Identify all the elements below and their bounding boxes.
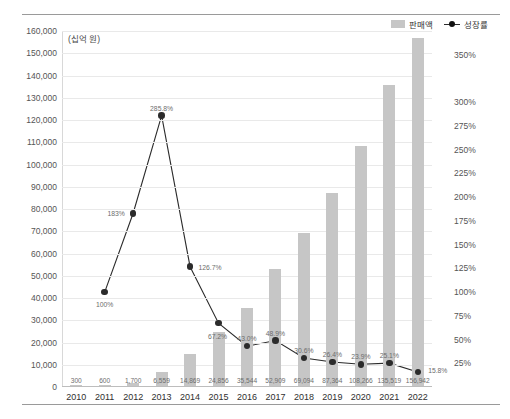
x-axis-tick: 2010 (66, 392, 86, 402)
gridline (62, 76, 432, 77)
gridline (62, 31, 432, 32)
y-axis-left-tick: 110,000 (27, 137, 57, 147)
growth-value-label: 126.7% (199, 264, 222, 271)
bar-value-label: 69,094 (294, 377, 314, 384)
growth-value-label: 100% (96, 301, 113, 308)
gridline (62, 53, 432, 54)
y-axis-left-tick: 100,000 (26, 160, 57, 170)
gridline (62, 231, 432, 232)
gridline (62, 142, 432, 143)
chart-figure: 판매액 성장률 (십억 원) 010,00020,00030,00040,000… (0, 0, 510, 419)
gridline (62, 98, 432, 99)
growth-value-label: 23.9% (351, 353, 370, 360)
x-axis-tick: 2015 (209, 392, 229, 402)
y-axis-right-tick: 75% (454, 311, 471, 321)
gridline (62, 120, 432, 121)
bar (412, 38, 424, 386)
growth-point-marker (158, 112, 165, 119)
bar-value-label: 6,559 (153, 377, 170, 384)
y-axis-left-tick: 80,000 (31, 204, 57, 214)
growth-value-label: 285.8% (150, 105, 173, 112)
gridline (62, 298, 432, 299)
y-axis-left-tick: 130,000 (26, 93, 57, 103)
bar (70, 385, 82, 386)
bar-value-label: 156,942 (406, 377, 430, 384)
y-axis-right-tick: 125% (454, 263, 476, 273)
bar-value-label: 52,909 (265, 377, 285, 384)
bar-value-label: 300 (71, 377, 82, 384)
growth-value-label: 30.6% (294, 347, 313, 354)
bottom-divider (22, 404, 500, 405)
x-axis-tick: 2014 (180, 392, 200, 402)
bar (298, 233, 310, 386)
y-axis-left-tick: 20,000 (31, 338, 57, 348)
growth-point-marker (272, 337, 279, 344)
y-axis-right-tick: 25% (454, 358, 471, 368)
x-axis-tick: 2011 (95, 392, 114, 402)
bar (355, 146, 367, 386)
y-axis-left-tick: 90,000 (31, 182, 57, 192)
bar (99, 385, 111, 386)
bar-value-label: 135,519 (377, 377, 401, 384)
growth-value-label: 25.1% (380, 352, 399, 359)
legend-item-growth: 성장률 (444, 18, 488, 30)
growth-value-label: 43.0% (237, 335, 256, 342)
y-axis-right-tick: 225% (454, 168, 476, 178)
bar (269, 269, 281, 386)
x-axis-tick: 2017 (265, 392, 285, 402)
growth-value-label: 26.4% (323, 351, 342, 358)
bar-value-label: 1,700 (125, 377, 142, 384)
y-axis-right-tick: 100% (454, 287, 476, 297)
gridline (62, 254, 432, 255)
y-axis-right-tick: 275% (454, 121, 476, 131)
y-axis-left-tick: 160,000 (26, 26, 57, 36)
growth-point-marker (358, 361, 365, 368)
y-axis-right-tick: 300% (454, 97, 476, 107)
growth-point-marker (329, 359, 336, 366)
gridline (62, 165, 432, 166)
y-axis-left-tick: 150,000 (26, 48, 57, 58)
growth-value-label: 67.2% (208, 333, 227, 340)
y-axis-right-tick: 175% (454, 216, 476, 226)
bar (383, 85, 395, 386)
x-axis-tick: 2019 (322, 392, 342, 402)
bar-value-label: 14,869 (180, 377, 200, 384)
y-axis-left-tick: 140,000 (26, 71, 57, 81)
y-axis-left-tick: 30,000 (31, 315, 57, 325)
top-divider (22, 14, 500, 15)
x-axis-tick: 2013 (152, 392, 172, 402)
bar-value-label: 24,856 (208, 377, 228, 384)
x-axis-tick: 2020 (351, 392, 371, 402)
bar-swatch-icon (391, 20, 405, 28)
x-axis-tick: 2018 (294, 392, 314, 402)
y-axis-left-tick: 50,000 (31, 271, 57, 281)
y-axis-left-tick: 0 (52, 382, 57, 392)
growth-value-label: 48.9% (266, 330, 285, 337)
y-axis-left-tick: 10,000 (31, 360, 57, 370)
y-axis-left-tick: 70,000 (31, 226, 57, 236)
x-axis-tick: 2012 (123, 392, 143, 402)
y-axis-left-tick: 120,000 (26, 115, 57, 125)
bar-value-label: 600 (99, 377, 110, 384)
y-axis-right-tick: 250% (454, 145, 476, 155)
x-axis-tick: 2022 (408, 392, 428, 402)
chart-legend: 판매액 성장률 (391, 18, 488, 30)
plot-area: 010,00020,00030,00040,00050,00060,00070,… (62, 31, 432, 387)
gridline (62, 276, 432, 277)
y-axis-left-tick: 40,000 (31, 293, 57, 303)
growth-point-marker (386, 360, 393, 367)
y-axis-right-tick: 350% (454, 50, 476, 60)
bar-value-label: 108,266 (349, 377, 373, 384)
y-axis-right-tick: 200% (454, 192, 476, 202)
bar-value-label: 87,364 (322, 377, 342, 384)
x-axis-tick: 2016 (237, 392, 257, 402)
y-axis-left-tick: 60,000 (31, 249, 57, 259)
gridline (62, 187, 432, 188)
line-marker-icon (444, 20, 460, 28)
legend-label-growth: 성장률 (464, 18, 488, 30)
growth-value-label: 183% (107, 210, 124, 217)
growth-value-label: 15.8% (428, 367, 447, 374)
legend-label-sales: 판매액 (409, 18, 433, 30)
y-axis-right-tick: 50% (454, 335, 471, 345)
x-axis-tick: 2021 (379, 392, 399, 402)
